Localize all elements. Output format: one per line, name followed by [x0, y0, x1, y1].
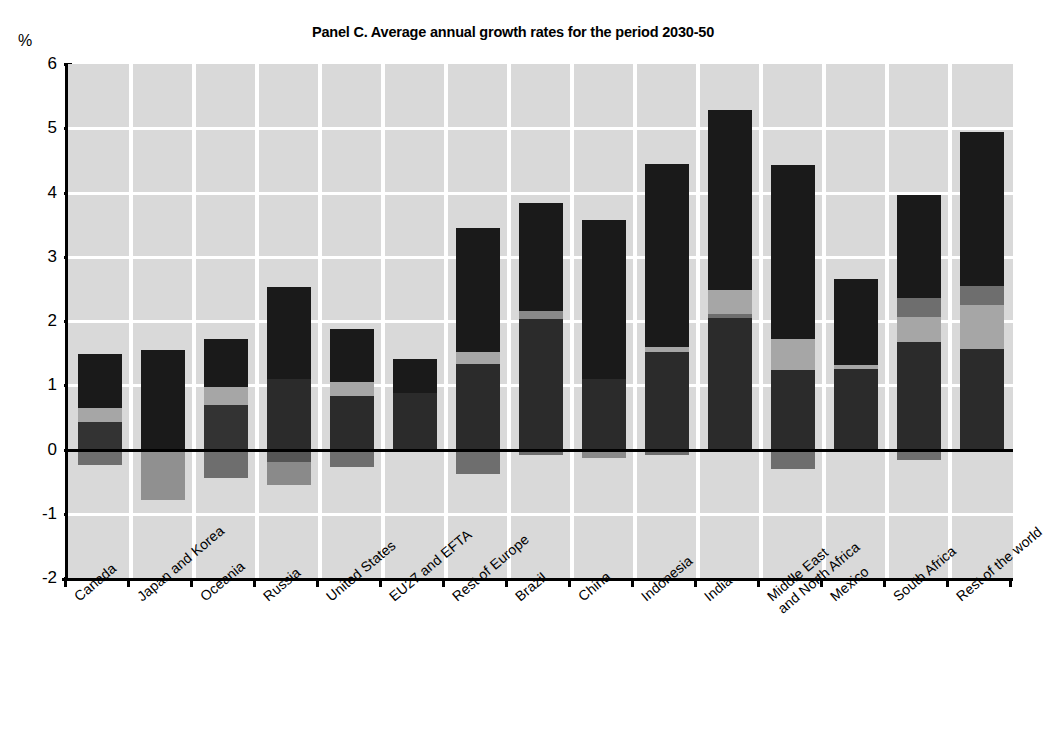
- gridline-vertical: [381, 64, 385, 578]
- bar-japan-and-korea: [141, 64, 185, 578]
- bar-segment: [78, 450, 122, 465]
- bar-segment: [834, 279, 878, 366]
- bar-eu27-and-efta: [393, 64, 437, 578]
- bar-segment: [519, 319, 563, 449]
- bar-segment: [204, 405, 248, 450]
- y-tick-label: 3: [17, 248, 57, 265]
- bar-segment: [330, 329, 374, 382]
- gridline-vertical: [570, 64, 574, 578]
- bar-segment: [645, 164, 689, 347]
- x-tick-mark: [190, 578, 193, 587]
- bar-segment: [267, 462, 311, 486]
- gridline-vertical: [507, 64, 511, 578]
- bar-segment: [456, 364, 500, 449]
- x-tick-mark: [883, 578, 886, 587]
- bar-segment: [960, 349, 1004, 450]
- x-tick-mark: [64, 578, 67, 587]
- gridline-vertical: [444, 64, 448, 578]
- plot-area: [65, 64, 1013, 578]
- bar-segment: [141, 450, 185, 501]
- bar-segment: [141, 350, 185, 450]
- bar-segment: [267, 379, 311, 450]
- x-tick-mark: [316, 578, 319, 587]
- gridline-vertical: [255, 64, 259, 578]
- bar-segment: [330, 382, 374, 396]
- gridline-vertical: [318, 64, 322, 578]
- y-tick-label: 6: [17, 55, 57, 72]
- bar-rest-of-europe: [456, 64, 500, 578]
- gridline-vertical: [885, 64, 889, 578]
- x-tick-mark: [631, 578, 634, 587]
- bar-rest-of-the-world: [960, 64, 1004, 578]
- bar-segment: [960, 305, 1004, 349]
- x-tick-mark: [757, 578, 760, 587]
- bar-china: [582, 64, 626, 578]
- y-tick-label: 1: [17, 376, 57, 393]
- bar-segment: [834, 369, 878, 449]
- bar-segment: [708, 318, 752, 450]
- bar-segment: [897, 298, 941, 317]
- y-tick-label: 2: [17, 312, 57, 329]
- x-tick-mark: [1009, 578, 1012, 587]
- x-tick-mark: [442, 578, 445, 587]
- y-axis-tick-labels: 6543210-1-2: [5, 0, 57, 736]
- bar-brazil: [519, 64, 563, 578]
- bar-canada: [78, 64, 122, 578]
- y-tick-label: 5: [17, 119, 57, 136]
- gridline-vertical: [192, 64, 196, 578]
- x-tick-mark: [127, 578, 130, 587]
- bar-segment: [771, 370, 815, 450]
- y-tick-label: 4: [17, 184, 57, 201]
- x-tick-mark: [379, 578, 382, 587]
- bar-segment: [897, 317, 941, 341]
- bar-segment: [960, 286, 1004, 305]
- bar-russia: [267, 64, 311, 578]
- bar-south-africa: [897, 64, 941, 578]
- bar-segment: [456, 352, 500, 364]
- bar-middle-east-and-north-africa: [771, 64, 815, 578]
- bar-segment: [645, 352, 689, 450]
- bar-segment: [78, 422, 122, 450]
- bar-segment: [393, 359, 437, 393]
- bar-segment: [267, 287, 311, 379]
- bar-segment: [456, 450, 500, 474]
- bar-segment: [78, 408, 122, 422]
- bar-segment: [519, 203, 563, 311]
- bar-segment: [330, 396, 374, 449]
- bar-segment: [204, 387, 248, 405]
- gridline-vertical: [129, 64, 133, 578]
- bar-segment: [960, 132, 1004, 286]
- bar-mexico: [834, 64, 878, 578]
- x-tick-mark: [694, 578, 697, 587]
- gridline-vertical: [759, 64, 763, 578]
- bar-segment: [771, 450, 815, 469]
- y-tick-label: -2: [17, 569, 57, 586]
- bar-segment: [708, 110, 752, 290]
- bar-segment: [393, 393, 437, 450]
- bar-segment: [456, 228, 500, 352]
- bar-segment: [78, 354, 122, 407]
- y-tick-label: -1: [17, 505, 57, 522]
- bar-indonesia: [645, 64, 689, 578]
- gridline-vertical: [822, 64, 826, 578]
- bar-segment: [204, 450, 248, 478]
- y-tick-label: 0: [17, 441, 57, 458]
- bar-segment: [897, 195, 941, 298]
- x-tick-mark: [568, 578, 571, 587]
- x-tick-mark: [253, 578, 256, 587]
- zero-line: [68, 449, 1013, 452]
- x-tick-mark: [946, 578, 949, 587]
- bar-united-states: [330, 64, 374, 578]
- bar-segment: [708, 290, 752, 314]
- bar-segment: [204, 339, 248, 387]
- bar-segment: [771, 165, 815, 339]
- gridline-vertical: [948, 64, 952, 578]
- bar-oceania: [204, 64, 248, 578]
- bar-segment: [582, 379, 626, 449]
- bar-segment: [771, 339, 815, 370]
- chart-title: Panel C. Average annual growth rates for…: [0, 24, 1026, 40]
- bar-segment: [519, 311, 563, 319]
- bar-segment: [330, 450, 374, 467]
- x-tick-mark: [505, 578, 508, 587]
